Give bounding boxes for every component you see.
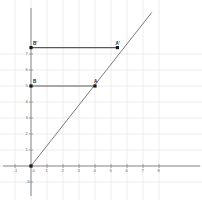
x-tick-label: 7: [142, 169, 144, 173]
point-label: A: [94, 80, 97, 85]
graph-canvas: [0, 0, 202, 200]
y-tick-label: 2: [26, 132, 28, 136]
x-tick-label: 8: [158, 169, 160, 173]
y-tick-label: 6: [26, 68, 28, 72]
plot-point-A: [93, 84, 96, 87]
segments-group: [31, 48, 117, 86]
x-tick-label: -1: [14, 169, 18, 173]
x-tick-label: 5: [110, 169, 112, 173]
rays-group: [31, 12, 152, 166]
coordinate-plane-figure: -1012345678 -11234567 BAB'A': [0, 0, 202, 200]
x-tick-label: 6: [126, 169, 128, 173]
x-tick-label: 2: [62, 169, 64, 173]
y-tick-label: 5: [26, 84, 28, 88]
plot-point-B: [29, 84, 32, 87]
y-tick-label: 7: [26, 52, 28, 56]
points-group: [29, 46, 119, 168]
point-label: B': [33, 42, 37, 47]
y-tick-label: 4: [26, 100, 28, 104]
plot-point-Bprime: [29, 46, 32, 49]
point-label: B: [33, 80, 36, 85]
y-tick-label: 1: [26, 148, 28, 152]
y-tick-label: 3: [26, 116, 28, 120]
dilation-ray: [31, 12, 152, 166]
y-tick-label: -1: [26, 180, 30, 184]
x-tick-label: 0: [33, 169, 35, 173]
plot-point-Aprime: [116, 46, 119, 49]
gridlines-group: [0, 0, 202, 200]
point-label: A': [115, 42, 119, 47]
x-tick-label: 3: [78, 169, 80, 173]
x-tick-label: 1: [46, 169, 48, 173]
x-tick-label: 4: [94, 169, 96, 173]
